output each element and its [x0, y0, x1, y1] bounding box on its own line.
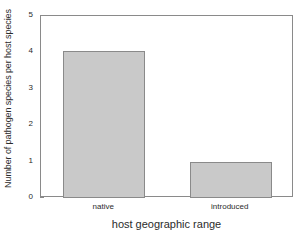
y-tick-mark: [40, 197, 44, 198]
plot-area: [40, 15, 293, 197]
y-axis-title: Number of pathogen species per host spec…: [0, 0, 16, 197]
y-tick-label: 0: [0, 191, 40, 203]
y-tick-label: 2: [0, 118, 40, 130]
x-tick-label: native: [58, 201, 148, 213]
x-tick-label: introduced: [185, 201, 275, 213]
bar-chart-figure: Number of pathogen species per host spec…: [0, 0, 308, 237]
y-tick-label: 1: [0, 155, 40, 167]
x-axis-title: host geographic range: [40, 217, 293, 231]
y-tick-label: 4: [0, 45, 40, 57]
bar: [190, 162, 272, 198]
y-tick-label: 3: [0, 82, 40, 94]
bar: [63, 51, 145, 198]
y-tick-label: 5: [0, 9, 40, 21]
